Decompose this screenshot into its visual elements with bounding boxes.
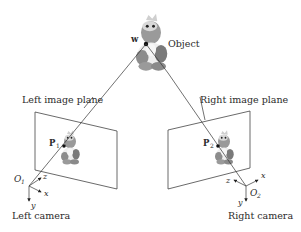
right-camera-label: Right camera [228, 210, 293, 221]
point-p2-subscript: 2 [210, 142, 214, 149]
right-image-plane [168, 111, 250, 189]
right-plane-label: Right image plane [200, 94, 289, 105]
left-axis-z-label: z [42, 172, 48, 181]
right-origin-subscript: 2 [256, 192, 261, 199]
stereo-vision-diagram: w Object Left image plane Right image pl… [0, 0, 301, 232]
point-p2-dot [216, 144, 220, 148]
point-p1-label: P [49, 138, 56, 148]
left-axis-x-label: x [44, 189, 49, 198]
left-camera-axes [29, 178, 41, 201]
object-label: Object [168, 38, 200, 49]
right-axis-y-label: y [237, 198, 243, 207]
right-axis-z-label: z [225, 176, 231, 185]
point-p1-subscript: 1 [56, 142, 60, 149]
point-w-label: w [130, 34, 139, 44]
point-p1-dot [62, 144, 66, 148]
point-p2-label: P [203, 138, 210, 148]
left-origin-subscript: 1 [21, 178, 25, 185]
right-axis-x-label: x [261, 171, 266, 180]
object-toy-image [136, 14, 167, 71]
left-camera-label: Left camera [12, 210, 70, 221]
left-axis-y-label: y [30, 201, 36, 210]
